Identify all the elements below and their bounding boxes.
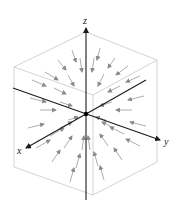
vector-arrow: [54, 88, 66, 94]
vector-arrow: [114, 148, 122, 160]
cube-edge: [93, 162, 157, 195]
x-axis-label: x: [17, 146, 21, 156]
vector-field-plot: [0, 0, 179, 212]
cube-edge: [14, 67, 93, 95]
vector-arrow: [108, 86, 120, 92]
origin-point: [84, 112, 88, 116]
vector-arrow: [94, 152, 98, 166]
vector-arrow: [128, 96, 144, 100]
vector-arrow: [80, 58, 82, 72]
vector-arrow: [126, 76, 140, 82]
vector-arrow: [64, 136, 72, 148]
vector-arrow: [76, 154, 80, 168]
z-axis-label: z: [83, 16, 87, 26]
cube-edge: [86, 32, 157, 60]
cube-edge: [14, 32, 86, 67]
vector-arrow: [72, 50, 76, 62]
vector-arrow: [108, 58, 115, 68]
vector-arrow: [126, 139, 140, 146]
vector-arrow: [97, 48, 100, 60]
vector-arrow: [110, 127, 124, 134]
vector-arrow: [98, 74, 104, 86]
vector-arrow: [130, 122, 146, 126]
vector-arrow: [58, 60, 66, 70]
vector-arrow: [70, 168, 74, 182]
y-axis-label: y: [164, 137, 168, 147]
vector-arrow: [32, 80, 46, 86]
vector-field-figure: z x y: [0, 0, 179, 212]
vector-arrow: [82, 136, 84, 150]
vector-arrow: [92, 58, 94, 72]
vector-arrow: [28, 124, 44, 128]
cube-edge: [14, 167, 93, 195]
vector-arrow: [68, 75, 74, 86]
vector-arrow: [100, 166, 104, 180]
vector-arrow: [50, 128, 64, 136]
vector-arrow: [116, 66, 128, 75]
vector-arrow: [52, 150, 60, 162]
vector-arrow: [88, 136, 90, 150]
vector-arrow: [100, 134, 108, 146]
